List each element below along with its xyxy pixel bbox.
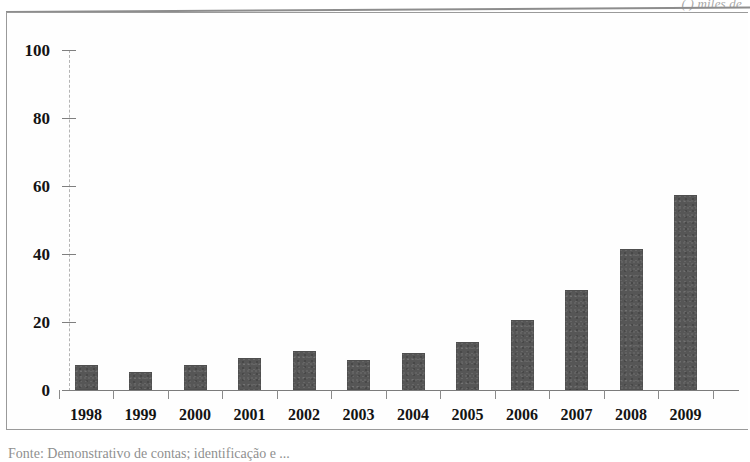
x-axis-tick	[113, 390, 114, 399]
y-axis-tick: 60	[62, 186, 76, 187]
bar	[293, 351, 316, 390]
x-axis-tick-label: 2004	[397, 406, 429, 424]
x-axis-tick	[604, 390, 605, 399]
x-axis-tick-label: 2000	[179, 406, 211, 424]
y-axis-tick: 40	[62, 254, 76, 255]
y-axis-tick-label: 40	[33, 245, 50, 265]
x-axis-tick	[658, 390, 659, 399]
source-caption: Fonte: Demonstrativo de contas; identifi…	[8, 446, 290, 462]
x-axis-tick-label: 2008	[615, 406, 647, 424]
bar	[75, 365, 98, 391]
bar	[184, 365, 207, 390]
x-axis-tick-label: 1999	[125, 406, 157, 424]
bar	[347, 360, 370, 390]
x-axis-tick	[549, 390, 550, 399]
bar	[674, 195, 697, 391]
x-axis-tick-label: 2009	[670, 406, 702, 424]
x-axis-line	[63, 390, 739, 391]
x-axis-tick	[713, 390, 714, 399]
y-axis-tick: 100	[62, 50, 76, 51]
bar	[620, 249, 643, 390]
y-axis-line	[69, 50, 70, 391]
y-axis-tick-label: 20	[33, 313, 50, 333]
bar	[456, 342, 479, 390]
y-axis-tick: 0	[62, 390, 76, 391]
bar	[402, 353, 425, 390]
x-axis-tick	[59, 390, 60, 399]
x-axis-tick-label: 2003	[343, 406, 375, 424]
y-axis-tick-label: 100	[25, 41, 51, 61]
x-axis-tick-label: 2002	[288, 406, 320, 424]
bar	[511, 320, 534, 390]
x-axis-tick-label: 2001	[234, 406, 266, 424]
x-axis-tick	[331, 390, 332, 399]
x-axis-tick	[168, 390, 169, 399]
x-axis-tick	[222, 390, 223, 399]
y-axis-tick-label: 0	[42, 381, 51, 401]
x-axis-tick	[440, 390, 441, 399]
x-axis-tick-label: 1998	[70, 406, 102, 424]
x-axis-tick-label: 2006	[506, 406, 538, 424]
x-axis-tick-label: 2007	[561, 406, 593, 424]
x-axis-tick	[277, 390, 278, 399]
bar	[238, 358, 261, 390]
chart-frame: 020406080100 199819992000200120022003200…	[6, 12, 748, 430]
bar-chart-plot-area: 020406080100 199819992000200120022003200…	[69, 43, 741, 398]
y-axis-tick: 20	[62, 322, 76, 323]
bar	[565, 290, 588, 390]
y-axis-tick: 80	[62, 118, 76, 119]
y-axis-tick-label: 80	[33, 109, 50, 129]
bar	[129, 372, 152, 390]
x-axis-tick	[386, 390, 387, 399]
x-axis-tick-label: 2005	[452, 406, 484, 424]
x-axis-tick	[495, 390, 496, 399]
y-axis-tick-label: 60	[33, 177, 50, 197]
